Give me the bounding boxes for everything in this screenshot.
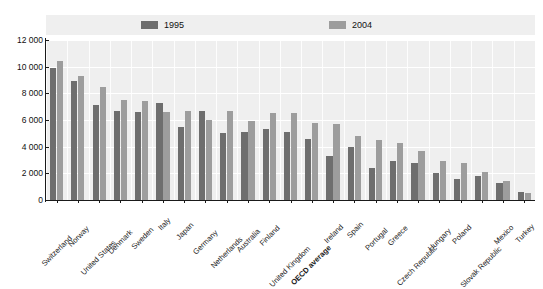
bar-group [322,40,343,200]
x-tick-mark [163,200,164,203]
bar-1995 [305,139,311,200]
legend-label-2004: 2004 [352,21,372,30]
bar-2004 [185,111,191,200]
y-tick-label: 6 000 [22,115,43,125]
x-tick-mark [418,200,419,203]
legend-swatch-1995 [141,21,158,29]
bar-group [89,40,110,200]
x-tick-mark [354,200,355,203]
y-tick-label: 2 000 [22,168,43,178]
bar-2004 [163,112,169,200]
x-tick-mark [142,200,143,203]
x-tick-mark [482,200,483,203]
chart-legend: 1995 2004 [46,15,535,35]
x-tick-mark [461,200,462,203]
bar-group [46,40,67,200]
bar-2004 [376,140,382,200]
x-tick-mark [78,200,79,203]
x-axis-label: Finland [258,224,282,248]
x-tick-mark [503,200,504,203]
bar-1995 [178,127,184,200]
bar-2004 [312,123,318,200]
legend-item-1995: 1995 [141,15,184,35]
bar-2004 [100,87,106,200]
bar-group [237,40,258,200]
x-axis-label: Turkey [514,222,537,245]
bar-1995 [433,173,439,200]
bar-2004 [206,120,212,200]
bar-1995 [390,161,396,200]
bar-1995 [71,81,77,200]
y-tick-mark [45,40,49,41]
bar-1995 [263,129,269,200]
bar-1995 [496,183,502,200]
bar-1995 [369,168,375,200]
x-tick-mark [120,200,121,203]
bar-2004 [482,172,488,200]
bar-2004 [291,113,297,200]
bar-group [259,40,280,200]
x-tick-mark [205,200,206,203]
y-tick-mark [45,173,49,174]
bar-1995 [50,68,56,200]
bar-group [216,40,237,200]
bar-2004 [397,143,403,200]
bar-2004 [227,111,233,200]
x-tick-mark [376,200,377,203]
bar-groups [46,40,535,200]
bar-1995 [284,132,290,200]
bar-group [131,40,152,200]
y-tick-label: 10 000 [17,62,43,72]
bar-group [450,40,471,200]
bar-2004 [418,151,424,200]
bar-2004 [355,136,361,200]
y-tick-mark [45,147,49,148]
x-axis-label: Mexico [492,223,515,246]
bar-group [344,40,365,200]
legend-item-2004: 2004 [329,15,372,35]
bar-group [174,40,195,200]
bar-1995 [454,179,460,200]
bar-1995 [93,105,99,200]
x-tick-mark [99,200,100,203]
bar-group [429,40,450,200]
y-tick-label: 8 000 [22,88,43,98]
bar-2004 [57,61,63,200]
x-tick-mark [248,200,249,203]
bar-group [67,40,88,200]
bar-group [492,40,513,200]
bar-2004 [333,124,339,200]
bar-2004 [121,100,127,200]
bar-2004 [248,121,254,200]
x-axis-label: Slovak Republic [458,245,503,289]
legend-label-1995: 1995 [164,21,184,30]
plot-area [46,40,535,200]
legend-swatch-2004 [329,21,346,29]
x-axis-label: Japan [175,221,196,242]
x-axis-label: Ireland [322,222,345,245]
x-axis-label: Spain [345,220,365,240]
x-axis-label: Germany [192,228,220,256]
bar-group [301,40,322,200]
y-tick-label: 4 000 [22,142,43,152]
y-tick-label: 12 000 [17,35,43,45]
bar-2004 [270,113,276,200]
bar-1995 [114,111,120,200]
bar-1995 [348,147,354,200]
x-tick-mark [227,200,228,203]
bar-1995 [241,132,247,200]
x-tick-mark [291,200,292,203]
bar-group [407,40,428,200]
bar-1995 [156,103,162,200]
x-tick-mark [524,200,525,203]
x-tick-mark [57,200,58,203]
bar-group [110,40,131,200]
bar-group [471,40,492,200]
bar-group [386,40,407,200]
bar-1995 [220,133,226,200]
bar-1995 [411,163,417,200]
bar-group [365,40,386,200]
x-axis-label: Greece [385,224,409,248]
bar-2004 [440,161,446,200]
